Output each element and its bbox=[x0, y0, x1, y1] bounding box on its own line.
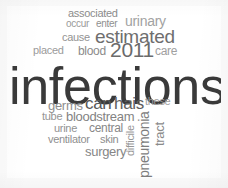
word-cloud-plot-area: associatedoccurenterurinarycauseestimate… bbox=[7, 6, 221, 178]
cloud-word: ventilator bbox=[48, 134, 90, 145]
word-cloud-image: associatedoccurenterurinarycauseestimate… bbox=[0, 0, 228, 188]
cloud-word: these bbox=[145, 96, 170, 107]
cloud-word: tract bbox=[153, 122, 166, 146]
cloud-word: tube bbox=[42, 111, 62, 122]
cloud-word: difficile bbox=[125, 125, 136, 156]
cloud-word: care bbox=[155, 45, 177, 57]
cloud-word: occur bbox=[66, 19, 89, 29]
cloud-word: surgery bbox=[85, 145, 126, 158]
cloud-word: pneumonia bbox=[137, 111, 151, 178]
cloud-word: cause bbox=[62, 32, 90, 43]
cloud-word: blood bbox=[78, 45, 106, 57]
cloud-word: placed bbox=[33, 45, 64, 56]
